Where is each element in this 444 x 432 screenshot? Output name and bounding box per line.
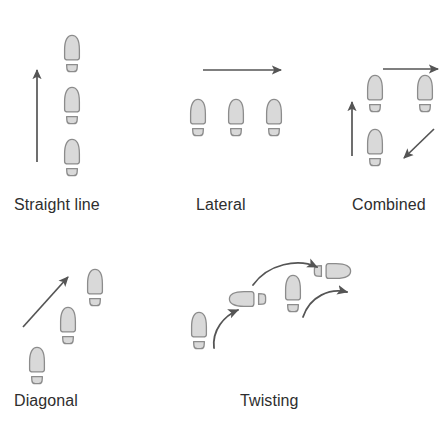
curved-arrow-icon — [303, 291, 347, 317]
footprint-icon — [191, 99, 206, 135]
panel-label-straight-line: Straight line — [14, 196, 100, 214]
curved-arrow-icon — [253, 263, 317, 285]
footprint-icon — [65, 35, 80, 71]
panel-label-diagonal: Diagonal — [14, 392, 78, 410]
footprint-icon — [229, 99, 244, 135]
rotated-footprint-icon — [229, 292, 265, 307]
panel-label-lateral: Lateral — [196, 196, 246, 214]
footprint-icon — [368, 129, 383, 165]
footprint-icon — [267, 99, 282, 135]
curved-arrow-icon — [214, 310, 238, 348]
rotated-footprint-icon — [314, 264, 350, 279]
footprint-icon — [368, 75, 383, 111]
diagonal-arrow-icon — [404, 129, 434, 158]
footstep-pattern-diagram: Straight line Lateral Combined Diagonal … — [0, 0, 444, 432]
panel-straight-line — [37, 35, 79, 175]
footprint-icon — [192, 312, 207, 348]
diagram-canvas — [0, 0, 444, 432]
footprint-icon — [418, 75, 433, 111]
footprint-icon — [88, 269, 103, 305]
footprint-icon — [61, 307, 76, 343]
panel-label-combined: Combined — [352, 196, 426, 214]
panel-lateral — [191, 70, 282, 136]
footprint-icon — [286, 275, 301, 311]
panel-combined — [352, 69, 438, 166]
panel-label-twisting: Twisting — [240, 392, 299, 410]
panel-twisting — [192, 263, 351, 349]
footprint-icon — [65, 87, 80, 123]
footprint-icon — [30, 347, 45, 383]
footprint-icon — [65, 139, 80, 175]
panel-diagonal — [23, 269, 102, 383]
